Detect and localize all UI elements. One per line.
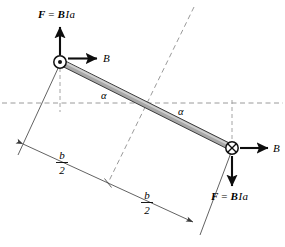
diagram-svg: F=BIa B B F=BIa α α b 2 b 2 <box>0 0 285 247</box>
force-label-top-B: B <box>57 8 65 20</box>
field-label-bottom: B <box>273 142 280 154</box>
force-label-bottom-a: a <box>243 190 249 202</box>
dimension-right-numerator: b <box>144 189 150 201</box>
physics-diagram-canvas: F=BIa B B F=BIa α α b 2 b 2 <box>0 0 285 247</box>
dimension-right-denominator: 2 <box>144 204 150 216</box>
left-extension-line <box>18 64 60 155</box>
current-into-page-symbol <box>226 142 238 154</box>
conducting-bar <box>61 59 233 152</box>
force-label-bottom-B: B <box>230 190 238 202</box>
dimension-line-left <box>23 144 108 183</box>
force-label-top-F: F <box>37 8 46 20</box>
dimension-midpoint-tick <box>105 179 112 188</box>
dimension-left-denominator: 2 <box>59 164 65 176</box>
force-label-top: F=BIa <box>37 8 76 20</box>
dimension-label-right: b 2 <box>141 189 153 216</box>
angle-label-lower: α <box>178 106 184 117</box>
field-label-top: B <box>103 52 110 64</box>
circle-dot-center <box>58 60 62 64</box>
force-label-top-eq: = <box>48 8 54 20</box>
force-label-bottom-eq: = <box>221 190 227 202</box>
dimension-left-numerator: b <box>59 149 65 161</box>
angle-label-upper: α <box>101 90 107 101</box>
force-label-top-a: a <box>70 8 76 20</box>
force-label-bottom-F: F <box>210 190 219 202</box>
current-out-of-page-symbol <box>54 56 66 68</box>
dimension-label-left: b 2 <box>56 149 68 176</box>
force-label-bottom: F=BIa <box>210 190 249 202</box>
